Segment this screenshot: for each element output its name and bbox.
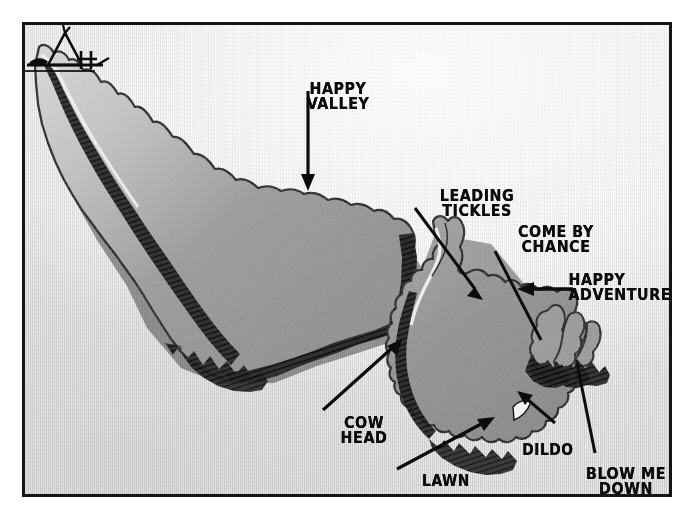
cartoon-canvas: HAPPY VALLEY LEADING TICKLES COME BY CHA… <box>0 0 689 517</box>
cartoon-frame: HAPPY VALLEY LEADING TICKLES COME BY CHA… <box>22 22 672 497</box>
label-happy-adventure: HAPPY ADVENTURE <box>568 273 672 303</box>
label-happy-valley: HAPPY VALLEY <box>287 82 388 112</box>
label-blow-me-down: BLOW ME DOWN <box>575 467 672 497</box>
label-leading-tickles: LEADING TICKLES <box>427 189 526 219</box>
label-come-by-chance: COME BY CHANCE <box>503 225 610 255</box>
label-cow-head: COW HEAD <box>324 416 403 446</box>
label-dildo: DILDO <box>516 443 580 458</box>
landmass-east-islets <box>529 305 610 388</box>
artist-signature <box>25 25 109 71</box>
label-lawn: LAWN <box>415 474 478 489</box>
